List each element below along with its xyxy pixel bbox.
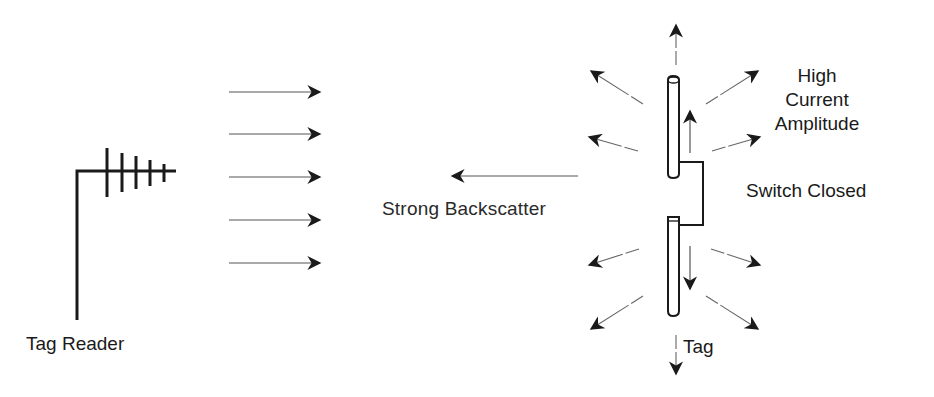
radiation-arrow-mr-up xyxy=(712,137,760,151)
radiation-arrow-mr-down xyxy=(711,249,760,265)
tag-label: Tag xyxy=(683,336,714,358)
tag-reader-label: Tag Reader xyxy=(26,333,124,355)
amplitude-line-1: High xyxy=(737,64,897,88)
tag-dipole-icon xyxy=(668,76,703,316)
radiation-arrow-ml-up xyxy=(589,137,638,151)
radiation-arrow-lr xyxy=(706,296,758,329)
switch-closed-label: Switch Closed xyxy=(746,180,866,202)
high-current-amplitude-label: High Current Amplitude xyxy=(737,64,897,136)
reader-antenna-icon xyxy=(77,148,176,320)
strong-backscatter-label: Strong Backscatter xyxy=(382,198,546,220)
radiation-arrow-ul xyxy=(591,71,643,104)
radiation-arrow-ll xyxy=(591,296,643,329)
incident-wave-arrows xyxy=(229,92,320,263)
amplitude-line-2: Current xyxy=(737,88,897,112)
amplitude-line-3: Amplitude xyxy=(737,112,897,136)
radiation-arrow-ml-down xyxy=(589,249,639,265)
rfid-backscatter-diagram: Tag Reader Strong Backscatter High Curre… xyxy=(0,0,934,397)
